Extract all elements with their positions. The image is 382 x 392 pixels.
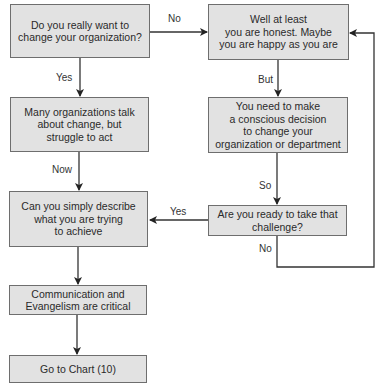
node-text: Many organizations talk about change, bu… bbox=[24, 106, 134, 144]
node-conscious-decision: You need to make a conscious decision to… bbox=[208, 97, 348, 153]
edge-label-no-loop: No bbox=[259, 243, 272, 254]
node-text: Do you really want to change your organi… bbox=[18, 19, 142, 44]
node-describe: Can you simply describe what you are try… bbox=[9, 191, 148, 247]
node-text: Are you ready to take that challenge? bbox=[217, 208, 337, 233]
node-text: Can you simply describe what you are try… bbox=[21, 200, 135, 238]
edge-label-yes: Yes bbox=[56, 72, 72, 83]
edge-label-but: But bbox=[258, 74, 273, 85]
edge-label-so: So bbox=[259, 180, 271, 191]
node-communication: Communication and Evangelism are critica… bbox=[9, 285, 147, 315]
node-honest: Well at least you are honest. Maybe you … bbox=[208, 4, 349, 60]
edge-label-no: No bbox=[168, 13, 181, 24]
node-text: Communication and Evangelism are critica… bbox=[25, 288, 130, 313]
node-change-question: Do you really want to change your organi… bbox=[10, 4, 150, 58]
node-text: Well at least you are honest. Maybe you … bbox=[219, 13, 338, 51]
node-text: Go to Chart (10) bbox=[40, 363, 116, 376]
node-text: You need to make a conscious decision to… bbox=[215, 100, 341, 150]
node-goto-chart: Go to Chart (10) bbox=[9, 355, 147, 383]
node-ready: Are you ready to take that challenge? bbox=[208, 205, 347, 236]
edge-label-yes-ready: Yes bbox=[170, 206, 186, 217]
node-struggle: Many organizations talk about change, bu… bbox=[10, 97, 149, 152]
edge-label-now: Now bbox=[52, 164, 72, 175]
